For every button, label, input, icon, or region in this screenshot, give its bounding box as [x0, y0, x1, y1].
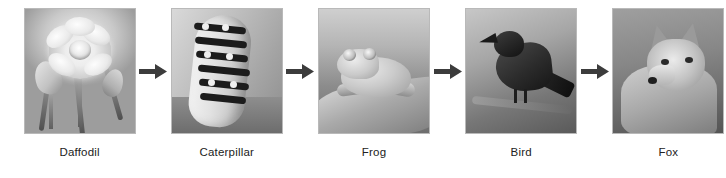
chain-arrow-2: [284, 8, 316, 134]
caterpillar-spot: [230, 81, 237, 88]
caterpillar-spot: [208, 79, 215, 86]
caterpillar-spot: [222, 24, 229, 31]
photo-daffodil: [24, 8, 136, 134]
chain-node-caption: Daffodil: [59, 146, 99, 158]
chain-arrow-4: [579, 8, 611, 134]
chain-arrow-1: [137, 8, 169, 134]
chain-node-caption: Bird: [511, 146, 532, 158]
chain-node-frog: Frog: [316, 8, 431, 158]
photo-frog: [318, 8, 430, 134]
chain-node-caterpillar: Caterpillar: [169, 8, 284, 158]
bird-leg: [524, 89, 527, 103]
bird-leg: [514, 89, 517, 103]
chain-node-fox: Fox: [611, 8, 726, 158]
bird-head: [494, 31, 524, 57]
chain-node-bird: Bird: [464, 8, 579, 158]
arrow-right-icon: [139, 64, 167, 79]
caterpillar-spot: [226, 53, 233, 60]
chain-node-daffodil: Daffodil: [22, 8, 137, 158]
photo-caterpillar: [171, 8, 283, 134]
chain-arrow-3: [432, 8, 464, 134]
frog-eye: [343, 49, 356, 61]
daffodil-corona: [69, 40, 91, 60]
arrow-right-icon: [581, 64, 609, 79]
chain-node-caption: Frog: [362, 146, 386, 158]
food-chain-diagram: Daffodil Caterpillar: [0, 0, 726, 158]
caterpillar-spot: [204, 51, 211, 58]
photo-fox: [612, 8, 724, 134]
bird-branch: [472, 96, 572, 114]
photo-bird: [465, 8, 577, 134]
arrow-right-icon: [286, 64, 314, 79]
caterpillar-spot: [202, 23, 209, 30]
chain-node-caption: Caterpillar: [200, 146, 255, 158]
frog-eye: [363, 48, 376, 60]
arrow-right-icon: [434, 64, 462, 79]
chain-node-caption: Fox: [659, 146, 679, 158]
